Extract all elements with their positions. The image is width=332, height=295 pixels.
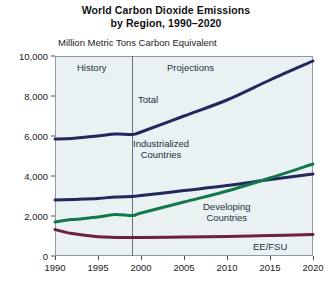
x-axis-tick-label: 1990 — [35, 262, 75, 273]
x-axis-tick-mark — [227, 256, 228, 260]
x-axis-tick-label: 1995 — [78, 262, 118, 273]
annotation-developing-line-1: Developing — [203, 201, 251, 212]
x-axis-tick-mark — [98, 256, 99, 260]
y-axis-tick-mark — [51, 56, 55, 57]
y-axis-tick-label: 4,000 — [0, 171, 48, 182]
annotation-industrialized-countries: Industrialized Countries — [133, 138, 189, 160]
y-axis-tick-mark — [51, 176, 55, 177]
chart-figure: World Carbon Dioxide Emissions by Region… — [0, 0, 332, 295]
chart-title-line-2: by Region, 1990–2020 — [0, 17, 332, 30]
x-axis-tick-mark — [313, 256, 314, 260]
y-axis-tick-mark — [51, 96, 55, 97]
annotation-history: History — [77, 62, 107, 73]
x-axis-tick-mark — [55, 256, 56, 260]
x-axis-tick-label: 2015 — [250, 262, 290, 273]
y-axis-tick-label: 0 — [0, 251, 48, 262]
x-axis-tick-label: 2000 — [121, 262, 161, 273]
annotation-projections: Projections — [167, 62, 214, 73]
series-line — [55, 164, 313, 222]
y-axis-tick-label: 2,000 — [0, 211, 48, 222]
annotation-developing-countries: Developing Countries — [203, 201, 251, 223]
y-axis-tick-label: 10,000 — [0, 51, 48, 62]
plot-area: History Projections Total Industrialized… — [55, 56, 313, 256]
y-axis-unit-label: Million Metric Tons Carbon Equivalent — [58, 37, 217, 48]
chart-title-line-1: World Carbon Dioxide Emissions — [0, 4, 332, 17]
x-axis-tick-label: 2005 — [164, 262, 204, 273]
annotation-ee-fsu: EE/FSU — [253, 241, 287, 252]
x-axis-tick-label: 2010 — [207, 262, 247, 273]
x-axis-tick-mark — [184, 256, 185, 260]
y-axis-tick-mark — [51, 216, 55, 217]
series-line — [55, 230, 313, 238]
x-axis-tick-label: 2020 — [293, 262, 332, 273]
chart-title: World Carbon Dioxide Emissions by Region… — [0, 4, 332, 30]
y-axis-tick-mark — [51, 136, 55, 137]
x-axis-tick-mark — [141, 256, 142, 260]
x-axis-tick-mark — [270, 256, 271, 260]
annotation-total: Total — [138, 94, 158, 105]
annotation-industrialized-line-2: Countries — [141, 149, 182, 160]
y-axis-tick-label: 6,000 — [0, 131, 48, 142]
y-axis-tick-label: 8,000 — [0, 91, 48, 102]
annotation-developing-line-2: Countries — [206, 212, 247, 223]
annotation-industrialized-line-1: Industrialized — [133, 138, 189, 149]
